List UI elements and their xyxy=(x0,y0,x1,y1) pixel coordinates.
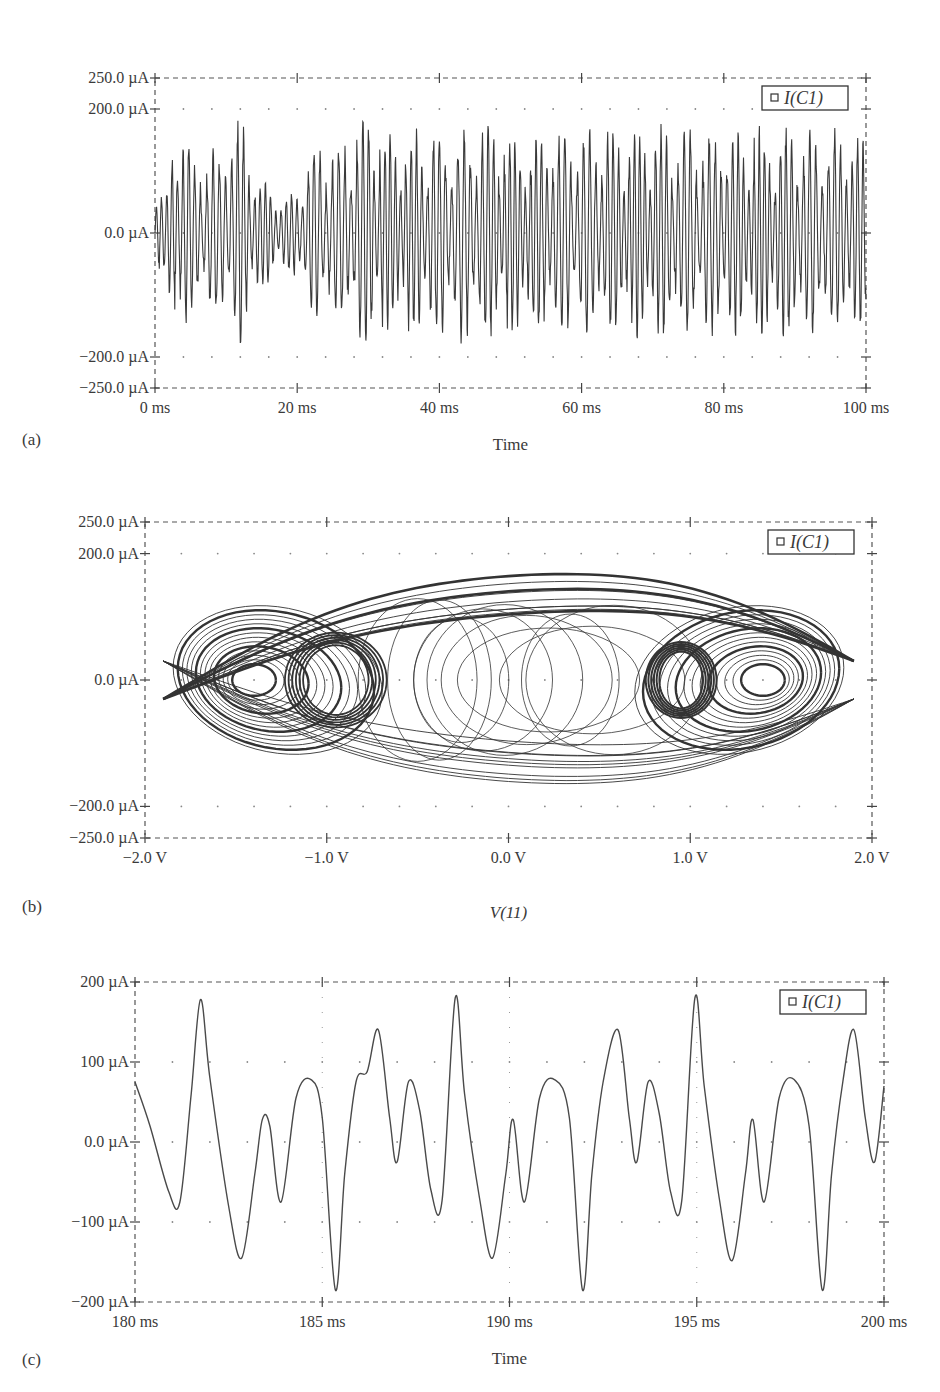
orbit-loop xyxy=(427,605,583,756)
grid-dot xyxy=(434,1061,436,1063)
grid-dot xyxy=(808,1221,810,1223)
grid-dot xyxy=(544,806,546,808)
grid-dot xyxy=(508,806,510,808)
grid-dot xyxy=(284,1141,286,1143)
orbit-transit xyxy=(163,661,854,762)
grid-dot xyxy=(835,679,837,681)
orbit-loop xyxy=(646,642,717,718)
grid-dot xyxy=(172,1141,174,1143)
grid-dot xyxy=(183,108,185,110)
grid-dot xyxy=(584,1221,586,1223)
y-tick-label: 100 µA xyxy=(80,1053,129,1071)
grid-dot xyxy=(580,679,582,681)
orbit-loop xyxy=(182,615,365,745)
orbit-loop xyxy=(205,637,325,722)
grid-dot xyxy=(353,108,355,110)
legend-square-icon xyxy=(789,998,796,1005)
grid-dot xyxy=(658,1141,660,1143)
grid-dot xyxy=(723,108,725,110)
grid-dot xyxy=(762,806,764,808)
grid-dot xyxy=(253,806,255,808)
x-tick-label: 200 ms xyxy=(861,1313,908,1330)
orbit-loop xyxy=(388,600,492,760)
grid-dot xyxy=(471,1221,473,1223)
grid-dot xyxy=(689,679,691,681)
grid-dot xyxy=(209,1061,211,1063)
x-tick-label: 0 ms xyxy=(140,399,171,416)
grid-dot xyxy=(835,553,837,555)
grid-dot xyxy=(621,1061,623,1063)
grid-dot xyxy=(211,108,213,110)
grid-dot xyxy=(771,1141,773,1143)
grid-dot xyxy=(410,108,412,110)
legend: I(C1) xyxy=(780,990,866,1014)
grid-dot xyxy=(439,108,441,110)
orbit-transit xyxy=(163,611,854,699)
grid-dot xyxy=(217,553,219,555)
grid-dot xyxy=(524,108,526,110)
grid-dot xyxy=(762,553,764,555)
grid-dot xyxy=(253,679,255,681)
grid-dot xyxy=(290,806,292,808)
x-tick-label: 100 ms xyxy=(843,399,890,416)
grid-dot xyxy=(798,806,800,808)
chart-panel-a: 250.0 µA200.0 µA0.0 µA−200.0 µA−250.0 µA… xyxy=(0,0,940,470)
grid-dot xyxy=(694,108,696,110)
grid-dot xyxy=(723,356,725,358)
grid-dot xyxy=(696,1221,698,1223)
x-axis-title: Time xyxy=(493,435,528,454)
grid-dot xyxy=(846,1221,848,1223)
x-tick-label: 195 ms xyxy=(673,1313,720,1330)
y-tick-label: 0.0 µA xyxy=(84,1133,129,1151)
orbit-loop xyxy=(173,606,382,755)
grid-dot xyxy=(808,1141,810,1143)
grid-dot xyxy=(751,356,753,358)
orbit-loop xyxy=(659,652,703,709)
orbit-transit xyxy=(163,599,854,699)
grid-dot xyxy=(399,679,401,681)
grid-dot xyxy=(762,679,764,681)
grid-dot xyxy=(617,806,619,808)
x-tick-label: 20 ms xyxy=(278,399,317,416)
x-tick-label: −1.0 V xyxy=(305,849,350,866)
orbit-loop xyxy=(178,610,374,749)
grid-dot xyxy=(217,679,219,681)
orbit-transit xyxy=(163,606,854,699)
grid-dot xyxy=(353,356,355,358)
orbit-transit xyxy=(163,590,854,699)
grid-dot xyxy=(609,108,611,110)
grid-dot xyxy=(246,1061,248,1063)
legend: I(C1) xyxy=(768,530,854,554)
orbit-loop xyxy=(414,609,553,751)
legend-box xyxy=(768,530,854,554)
x-tick-label: 80 ms xyxy=(704,399,743,416)
grid-dot xyxy=(209,1141,211,1143)
grid-dot xyxy=(638,108,640,110)
grid-dot xyxy=(508,679,510,681)
grid-dot xyxy=(362,553,364,555)
grid-dot xyxy=(362,806,364,808)
grid-dot xyxy=(584,1141,586,1143)
orbit-transit xyxy=(163,661,854,776)
grid-dot xyxy=(284,1221,286,1223)
grid-dot xyxy=(471,553,473,555)
x-tick-label: 2.0 V xyxy=(854,849,890,866)
grid-dot xyxy=(396,1141,398,1143)
grid-dot xyxy=(638,356,640,358)
grid-dot xyxy=(509,1141,511,1143)
x-tick-label: 185 ms xyxy=(299,1313,346,1330)
plot-frame-b: 250.0 µA200.0 µA0.0 µA−200.0 µA−250.0 µA… xyxy=(22,513,890,922)
grid-dot xyxy=(399,806,401,808)
grid-dot xyxy=(325,108,327,110)
orbit-loop xyxy=(191,624,349,736)
grid-dot xyxy=(435,679,437,681)
grid-dot xyxy=(733,1221,735,1223)
grid-dot xyxy=(296,108,298,110)
y-tick-label: 0.0 µA xyxy=(104,224,149,242)
grid-dot xyxy=(268,356,270,358)
y-tick-label: 200.0 µA xyxy=(88,100,149,118)
grid-dot xyxy=(211,356,213,358)
legend-label: I(C1) xyxy=(789,532,829,553)
orbit-loop xyxy=(292,638,379,723)
y-tick-label: 250.0 µA xyxy=(88,69,149,87)
